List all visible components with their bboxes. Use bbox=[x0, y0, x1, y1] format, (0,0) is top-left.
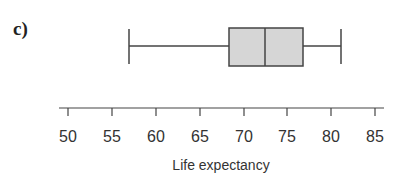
tick-labels: 50 55 60 65 70 75 80 85 bbox=[59, 128, 384, 145]
svg-text:70: 70 bbox=[235, 128, 253, 145]
svg-text:50: 50 bbox=[59, 128, 77, 145]
boxplot bbox=[129, 28, 341, 66]
svg-text:80: 80 bbox=[322, 128, 340, 145]
svg-text:85: 85 bbox=[366, 128, 384, 145]
svg-text:60: 60 bbox=[147, 128, 165, 145]
svg-text:55: 55 bbox=[103, 128, 121, 145]
boxplot-chart: 50 55 60 65 70 75 80 85 Life expectancy bbox=[0, 0, 400, 181]
x-axis bbox=[59, 108, 384, 116]
iqr-box bbox=[229, 28, 303, 66]
x-axis-title: Life expectancy bbox=[172, 157, 269, 173]
svg-text:65: 65 bbox=[191, 128, 209, 145]
svg-text:75: 75 bbox=[278, 128, 296, 145]
